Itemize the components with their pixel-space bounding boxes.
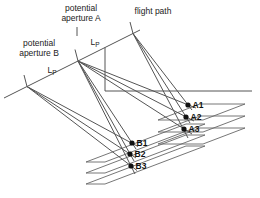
ray-aright-a2 xyxy=(133,34,190,124)
ray-bleft-b2 xyxy=(27,87,136,159)
tick-aperture-a-right xyxy=(130,22,133,34)
point-label-b2: B2 xyxy=(135,149,146,159)
ray-aright-a1 xyxy=(133,34,192,111)
ray-mid-b1 xyxy=(78,61,136,149)
sar-geometry-diagram: potential aperture A flight path potenti… xyxy=(0,0,260,198)
diagram-canvas xyxy=(0,0,260,198)
label-potential-aperture-b-line1: potential xyxy=(19,38,59,48)
tick-aperture-b-left xyxy=(24,75,27,87)
label-potential-aperture-b: potential aperture B xyxy=(19,38,59,58)
label-potential-aperture-a-line2: aperture A xyxy=(61,13,100,23)
label-potential-aperture-a-line1: potential xyxy=(61,3,100,13)
target-dot-b2 xyxy=(127,151,132,156)
label-aperture-b-length: LP xyxy=(47,65,56,77)
point-label-a3: A3 xyxy=(189,124,200,134)
ray-mid-a1 xyxy=(78,61,196,108)
target-dot-a1 xyxy=(185,102,190,107)
target-dot-b1 xyxy=(129,140,134,145)
label-aperture-a-length: LP xyxy=(90,37,99,49)
target-dot-a3 xyxy=(181,126,186,131)
lp-b-subscript: P xyxy=(52,69,56,76)
ray-mid-b3 xyxy=(78,61,135,174)
point-label-b3: B3 xyxy=(136,161,147,171)
point-label-a1: A1 xyxy=(193,100,204,110)
lp-a-subscript: P xyxy=(95,41,99,48)
point-label-a2: A2 xyxy=(191,112,202,122)
tick-aperture-mid xyxy=(75,50,78,62)
target-dot-b3 xyxy=(128,163,133,168)
label-flight-path: flight path xyxy=(135,6,172,16)
ray-bleft-b3 xyxy=(27,87,137,171)
point-label-b1: B1 xyxy=(137,138,148,148)
label-potential-aperture-a: potential aperture A xyxy=(61,3,100,23)
label-potential-aperture-b-line2: aperture B xyxy=(19,48,59,58)
target-dot-a2 xyxy=(183,114,188,119)
